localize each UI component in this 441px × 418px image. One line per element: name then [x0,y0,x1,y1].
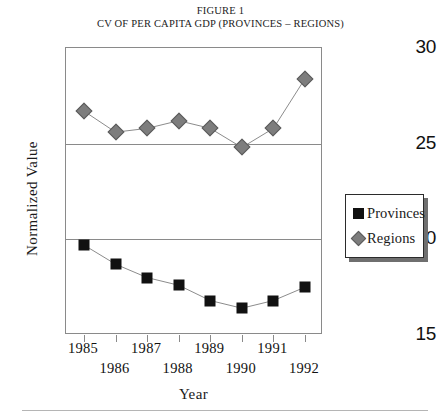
legend-item-regions[interactable]: Regions [351,226,423,251]
x-tick-label-1991: 1991 [242,340,302,357]
x-tick-label-1988: 1988 [148,360,208,377]
x-tick-label-1985: 1985 [53,340,113,357]
x-tick-1985 [84,335,85,342]
data-point-provinces-1990 [236,303,247,314]
y-axis-label: Normalized Value [24,104,41,294]
legend-label: Provinces [365,205,425,222]
x-tick-label-1989: 1989 [179,340,239,357]
x-tick-1991 [273,335,274,342]
data-point-provinces-1987 [142,272,153,283]
legend: Provinces Regions [345,194,424,258]
y-tick-label-15: 15 [381,323,441,345]
x-tick-label-1986: 1986 [85,360,145,377]
data-point-provinces-1985 [79,240,90,251]
x-axis-label: Year [65,386,322,403]
x-tick-1989 [210,335,211,342]
x-tick-1987 [147,335,148,342]
filled-diamond-icon [351,233,365,244]
x-tick-1992 [305,335,306,342]
data-point-provinces-1992 [300,282,311,293]
x-tick-label-1990: 1990 [211,360,271,377]
data-point-provinces-1991 [268,295,279,306]
y-tick-label-25: 25 [381,132,441,154]
figure-caption: FIGURE 1 CV OF PER CAPITA GDP (PROVINCES… [0,4,441,30]
page-divider [22,410,428,411]
figure-title: CV OF PER CAPITA GDP (PROVINCES – REGION… [0,17,441,30]
figure-number: FIGURE 1 [0,4,441,17]
filled-square-icon [351,208,365,219]
legend-item-provinces[interactable]: Provinces [351,201,423,226]
x-tick-1990 [242,335,243,342]
x-tick-label-1987: 1987 [116,340,176,357]
data-point-provinces-1986 [110,259,121,270]
legend-label: Regions [365,230,415,247]
chart: Normalized Value 15202530 19851986198719… [0,30,441,390]
plot-area [65,47,322,334]
data-point-provinces-1989 [205,295,216,306]
x-tick-1988 [179,335,180,342]
series-lines [66,48,323,335]
y-tick-label-30: 30 [381,36,441,58]
x-tick-label-1992: 1992 [274,360,334,377]
x-tick-1986 [116,335,117,342]
data-point-provinces-1988 [173,280,184,291]
